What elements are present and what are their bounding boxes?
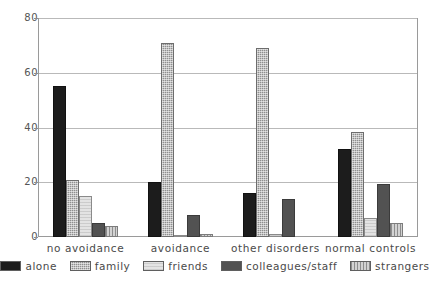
bar (105, 226, 118, 237)
bar-group (53, 18, 119, 237)
bar (53, 86, 66, 237)
bar (92, 223, 105, 237)
legend-label: alone (25, 261, 56, 272)
bar (243, 193, 256, 237)
x-axis-category-label: other disorders (228, 243, 323, 254)
bar (269, 234, 282, 237)
legend-swatch-icon (350, 261, 371, 271)
chart-legend: alonefamilyfriendscolleagues/staffstrang… (0, 261, 430, 272)
bar (66, 180, 79, 237)
y-tick-mark (34, 237, 38, 238)
bar (377, 184, 390, 237)
legend-label: friends (168, 261, 208, 272)
legend-label: family (95, 261, 130, 272)
legend-item[interactable]: alone (0, 261, 56, 272)
y-axis: 020406080 (0, 0, 38, 290)
legend-swatch-icon (0, 261, 21, 271)
bar (351, 132, 364, 237)
bar (200, 234, 213, 237)
bar (282, 199, 295, 237)
bar (79, 196, 92, 237)
x-axis-category-label: normal controls (323, 243, 418, 254)
bar (161, 43, 174, 237)
legend-swatch-icon (70, 261, 91, 271)
bar (148, 182, 161, 237)
x-axis-category-label: avoidance (133, 243, 228, 254)
legend-label: strangers (375, 261, 429, 272)
legend-item[interactable]: family (70, 261, 130, 272)
bar-chart: 020406080 no avoidanceavoidanceother dis… (0, 0, 430, 290)
legend-swatch-icon (221, 261, 242, 271)
bar-group (338, 18, 404, 237)
bar-group (148, 18, 214, 237)
bar (364, 218, 377, 237)
legend-item[interactable]: strangers (350, 261, 429, 272)
legend-swatch-icon (143, 261, 164, 271)
bar (390, 223, 403, 237)
legend-item[interactable]: friends (143, 261, 208, 272)
bar (256, 48, 269, 237)
x-axis-category-label: no avoidance (38, 243, 133, 254)
bar (187, 215, 200, 237)
legend-item[interactable]: colleagues/staff (221, 261, 337, 272)
bar-group (243, 18, 309, 237)
bar (338, 149, 351, 237)
bar (174, 235, 187, 237)
bars-layer (38, 18, 418, 237)
legend-label: colleagues/staff (246, 261, 337, 272)
